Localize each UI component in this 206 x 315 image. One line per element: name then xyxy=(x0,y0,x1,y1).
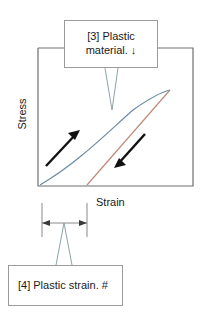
callout-bottom-leader xyxy=(56,223,72,265)
callout-plastic-material: [3] Plastic material. ↓ xyxy=(64,20,158,68)
x-axis-label: Strain xyxy=(96,196,156,208)
y-axis-label: Stress xyxy=(16,84,28,144)
callout-plastic-strain-text: [4] Plastic strain. # xyxy=(18,279,108,293)
y-axis-label-text: Stress xyxy=(16,98,28,129)
callout-plastic-material-line2: material. ↓ xyxy=(86,44,137,58)
x-axis-label-text: Strain xyxy=(96,196,125,208)
callout-plastic-material-body: [3] Plastic material. ↓ xyxy=(86,30,137,58)
callout-plastic-material-line1: [3] Plastic xyxy=(86,30,137,44)
plastic-strain-dimension xyxy=(42,203,87,237)
unloading-line xyxy=(87,90,170,185)
callout-plastic-strain: [4] Plastic strain. # xyxy=(8,265,123,306)
loading-curve xyxy=(40,90,170,185)
callout-top-leader xyxy=(105,68,118,110)
unloading-arrow-icon xyxy=(114,134,145,168)
stress-strain-figure: Stress Strain [3] Plastic material. ↓ [4… xyxy=(0,0,206,315)
